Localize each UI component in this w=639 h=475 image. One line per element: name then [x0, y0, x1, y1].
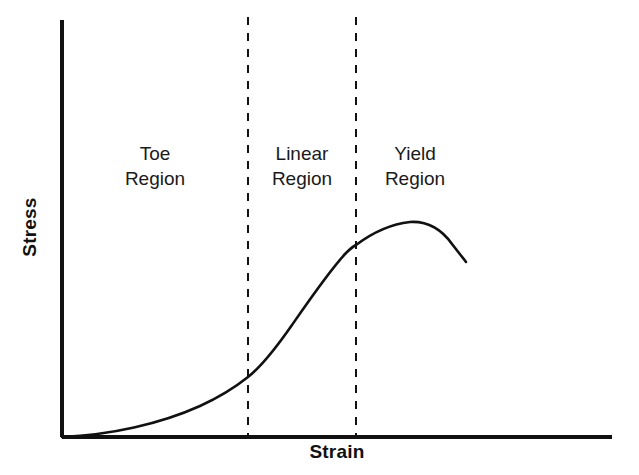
stress-strain-curve	[62, 222, 466, 437]
x-axis-label: Strain	[237, 441, 437, 463]
stress-strain-figure: Stress Strain Toe Region Linear Region Y…	[0, 0, 639, 475]
plot-canvas	[0, 0, 639, 475]
region-label-yield: Yield Region	[355, 141, 475, 191]
region-label-linear: Linear Region	[242, 141, 362, 191]
region-label-yield-line2: Region	[355, 166, 475, 191]
region-label-yield-line1: Yield	[355, 141, 475, 166]
region-label-toe: Toe Region	[95, 141, 215, 191]
region-label-linear-line1: Linear	[242, 141, 362, 166]
y-axis-label: Stress	[15, 147, 45, 307]
region-label-linear-line2: Region	[242, 166, 362, 191]
region-label-toe-line2: Region	[95, 166, 215, 191]
region-label-toe-line1: Toe	[95, 141, 215, 166]
